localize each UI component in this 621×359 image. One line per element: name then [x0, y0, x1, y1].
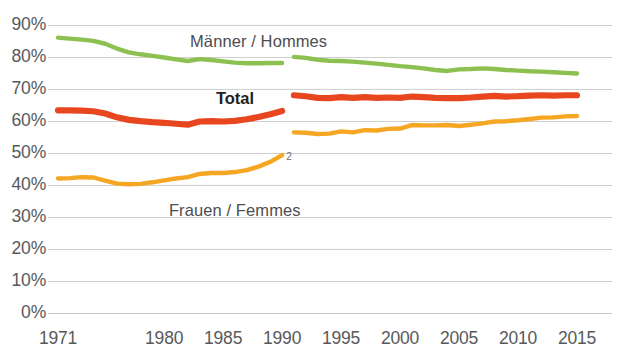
chart-plot-area	[0, 0, 621, 359]
gridlines-group	[48, 25, 612, 314]
y-tick-40: 40%	[0, 174, 46, 195]
series-line-1-segment-1	[294, 95, 577, 98]
series-break-footnote-marker: 2	[286, 151, 292, 162]
series-line-2-segment-1	[294, 116, 577, 134]
y-tick-50: 50%	[0, 142, 46, 163]
y-tick-10: 10%	[0, 270, 46, 291]
series-line-2-segment-0	[58, 155, 282, 184]
series-line-1-segment-0	[58, 110, 282, 124]
series-label-total: Total	[216, 89, 254, 108]
chart-container: 0%10%20%30%40%50%60%70%80%90% 1971198019…	[0, 0, 621, 359]
x-tick-2015: 2015	[542, 328, 612, 349]
y-tick-70: 70%	[0, 78, 46, 99]
y-tick-20: 20%	[0, 238, 46, 259]
y-tick-0: 0%	[0, 302, 46, 323]
y-tick-30: 30%	[0, 206, 46, 227]
series-label-frauen: Frauen / Femmes	[169, 201, 301, 220]
y-tick-60: 60%	[0, 110, 46, 131]
y-tick-80: 80%	[0, 46, 46, 67]
y-tick-90: 90%	[0, 14, 46, 35]
series-lines-group	[58, 38, 577, 185]
x-tick-1971: 1971	[23, 328, 93, 349]
series-label-maenner: Männer / Hommes	[190, 32, 327, 51]
series-line-0-segment-1	[294, 57, 577, 74]
